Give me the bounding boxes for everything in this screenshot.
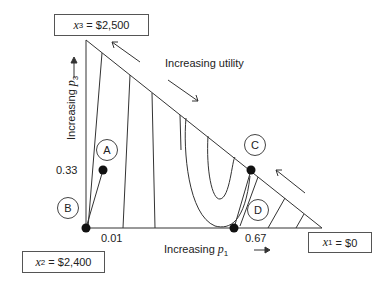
indifference-curve [180,115,181,150]
point-c-dot [247,166,256,175]
outcome-box-x2: x2 = $2,400 [22,251,105,273]
horizontal-axis-arrow-icon [254,247,270,253]
tick-label-067: 0.67 [245,232,266,244]
axis-label-sub: 1 [224,249,228,258]
indifference-curve [152,93,155,228]
u-curve-outer [185,118,250,227]
indifference-curve [296,214,304,228]
horizontal-axis-label: Increasing p1 [164,242,228,258]
point-label-a: A [96,139,118,161]
point-label-b: B [57,197,79,219]
tick-label-033: 0.33 [56,164,77,176]
axis-label-text: Increasing [65,86,77,140]
outcome-box-x3: x3 = $2,500 [54,14,149,36]
var-sub: 1 [328,238,332,247]
axis-label-text: Increasing [164,243,218,255]
vertical-axis-label: Increasing p3 [64,76,80,140]
indifference-curve [123,75,130,228]
outcome-box-x1: x1 = $0 [308,232,372,253]
tick-label-001: 0.01 [101,232,122,244]
point-d-dot [230,224,239,233]
arrow-up-left-top-icon [112,42,140,62]
arrow-down-right-icon [168,80,198,101]
point-label-d: D [247,199,269,221]
u-curve-inner [208,136,235,199]
axis-label-sub: 3 [71,76,80,80]
var-sub: 2 [41,258,45,267]
indifference-curve [268,198,285,228]
outcome-value: = $2,400 [48,256,91,268]
arrow-up-left-bottom-icon [276,170,305,193]
point-b-dot [82,224,91,233]
increasing-utility-label: Increasing utility [165,57,244,69]
line-b-to-a [86,170,103,228]
point-a-dot [99,166,108,175]
point-label-c: C [244,134,266,156]
outcome-value: = $2,500 [86,19,129,31]
var-sub: 3 [79,21,83,30]
axis-label-var: p [64,80,78,86]
outcome-value: = $0 [336,237,358,249]
